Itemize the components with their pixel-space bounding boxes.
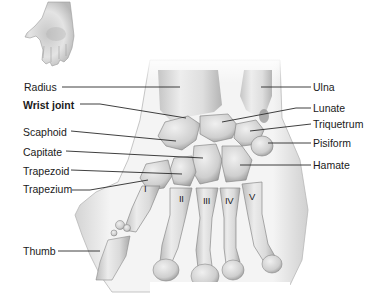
label-lunate: Lunate <box>313 102 345 114</box>
label-radius: Radius <box>24 81 57 93</box>
wrist-anatomy-diagram: Radius Wrist joint Scaphoid Capitate Tra… <box>0 0 385 297</box>
label-ulna: Ulna <box>313 81 335 93</box>
label-pisiform: Pisiform <box>313 137 351 149</box>
metacarpal-numeral-iv: IV <box>225 196 233 206</box>
label-trapezoid: Trapezoid <box>23 165 69 177</box>
label-trapezium: Trapezium <box>23 183 72 195</box>
metacarpal-numeral-iii: III <box>203 196 210 206</box>
metacarpal-numeral-ii: II <box>179 194 184 204</box>
label-thumb: Thumb <box>23 245 56 257</box>
label-hamate: Hamate <box>313 159 350 171</box>
metacarpal-numeral-v: V <box>249 192 255 202</box>
label-triquetrum: Triquetrum <box>313 118 363 130</box>
label-scaphoid: Scaphoid <box>23 126 67 138</box>
open-hand-icon <box>25 2 74 66</box>
label-wrist-joint: Wrist joint <box>23 99 74 111</box>
label-capitate: Capitate <box>23 146 62 158</box>
metacarpal-numeral-i: I <box>144 184 146 194</box>
